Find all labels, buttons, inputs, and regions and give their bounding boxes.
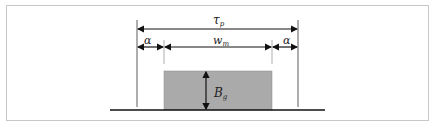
- magnet-width-label: wm: [213, 34, 229, 48]
- pole-pitch-label: τp: [213, 13, 225, 28]
- gap-right-label: α: [283, 34, 291, 47]
- magnet-dimension-diagram: τp α wm α Bg: [0, 0, 436, 128]
- gap-left-label: α: [144, 34, 152, 47]
